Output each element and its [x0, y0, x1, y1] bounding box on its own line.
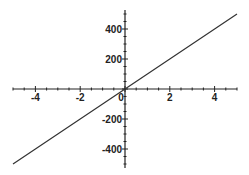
x-tick-label: 2: [167, 92, 173, 103]
y-tick-label: -400: [102, 144, 122, 155]
y-tick-label: 400: [105, 24, 122, 35]
x-tick-label: -2: [76, 92, 85, 103]
chart: -4-2024 400200-200-400: [0, 0, 249, 175]
y-tick-label: -200: [102, 114, 122, 125]
y-tick-label: 200: [105, 54, 122, 65]
x-tick-label: -4: [31, 92, 40, 103]
x-tick-label: 4: [212, 92, 218, 103]
